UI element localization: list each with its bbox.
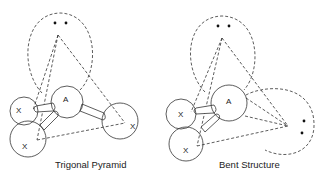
lone-pair-lobe [28,13,93,93]
atom-label-a: A [226,97,231,106]
lone-pair-lobe-top [190,16,254,92]
atom-label-x: X [16,106,21,115]
caption-bent-structure: Bent Structure [219,159,280,170]
vsepr-diagram [0,0,323,179]
bent-structure-figure [166,16,314,161]
atom-label-a: A [63,95,68,104]
atom-x-lower [10,121,46,157]
atom-x-upper [10,97,38,125]
atom-label-x: X [183,146,188,155]
atom-label-x: X [22,142,27,151]
atom-label-x: X [178,110,183,119]
atom-x-right [102,103,138,139]
atom-label-x: X [130,122,135,131]
trigonal-pyramid-figure [10,13,138,157]
caption-trigonal-pyramid: Trigonal Pyramid [55,159,126,170]
